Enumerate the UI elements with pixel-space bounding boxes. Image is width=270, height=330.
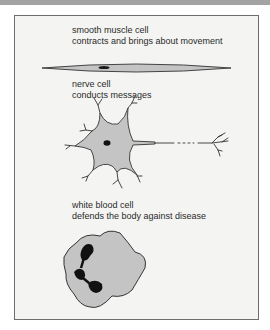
neuron-nucleus (104, 140, 111, 146)
white-blood-cell-illustration (64, 231, 146, 307)
smooth-muscle-cell-illustration (42, 64, 231, 72)
nerve-cell-illustration (65, 96, 228, 188)
cell-illustrations (0, 0, 270, 330)
muscle-nucleus (99, 66, 110, 69)
